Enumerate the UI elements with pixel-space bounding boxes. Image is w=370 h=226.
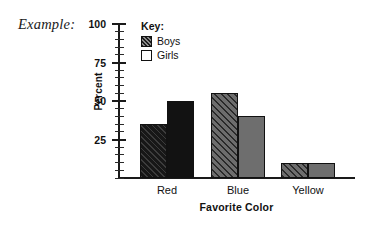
y-tick-minor xyxy=(115,39,124,40)
y-tick-label: 25 xyxy=(66,135,106,146)
x-category-label-yellow: Yellow xyxy=(273,184,343,196)
y-tick-minor xyxy=(115,85,124,86)
y-tick-major xyxy=(112,23,126,25)
x-category-label-blue: Blue xyxy=(203,184,273,196)
legend-label-boys: Boys xyxy=(157,35,180,47)
legend-title: Key: xyxy=(141,20,180,32)
bar-chart: 100755025 Percent RedBlueYellow Favorite… xyxy=(0,0,370,226)
y-tick-minor xyxy=(115,108,124,109)
y-tick-major xyxy=(112,62,126,64)
y-tick-minor xyxy=(115,47,124,48)
bar-blue-boys xyxy=(211,93,238,178)
y-tick-minor xyxy=(115,124,124,125)
legend-item-girls: Girls xyxy=(141,49,180,61)
y-tick-label: 100 xyxy=(66,19,106,30)
y-tick-minor xyxy=(115,154,124,155)
bar-red-boys xyxy=(140,124,167,178)
legend-swatch-boys-icon xyxy=(141,36,152,47)
y-tick-minor xyxy=(115,54,124,55)
y-tick-minor xyxy=(115,93,124,94)
bar-yellow-girls xyxy=(308,163,335,178)
y-tick-minor xyxy=(115,162,124,163)
bar-red-girls xyxy=(167,101,194,178)
legend-swatch-girls-icon xyxy=(141,50,152,61)
chart-legend: Key: Boys Girls xyxy=(141,20,180,63)
y-tick-minor xyxy=(115,70,124,71)
y-axis-title: Percent xyxy=(93,62,104,122)
y-tick-minor xyxy=(115,116,124,117)
legend-label-girls: Girls xyxy=(157,49,179,61)
y-tick-minor xyxy=(115,31,124,32)
y-tick-major xyxy=(112,139,126,141)
y-tick-minor xyxy=(115,178,124,179)
y-tick-minor xyxy=(115,170,124,171)
bar-yellow-boys xyxy=(281,163,308,178)
x-category-label-red: Red xyxy=(132,184,202,196)
bar-blue-girls xyxy=(238,116,265,178)
y-tick-minor xyxy=(115,77,124,78)
y-tick-minor xyxy=(115,131,124,132)
x-axis-title: Favorite Color xyxy=(118,201,355,213)
y-tick-minor xyxy=(115,147,124,148)
y-tick-major xyxy=(112,100,126,102)
legend-item-boys: Boys xyxy=(141,35,180,47)
